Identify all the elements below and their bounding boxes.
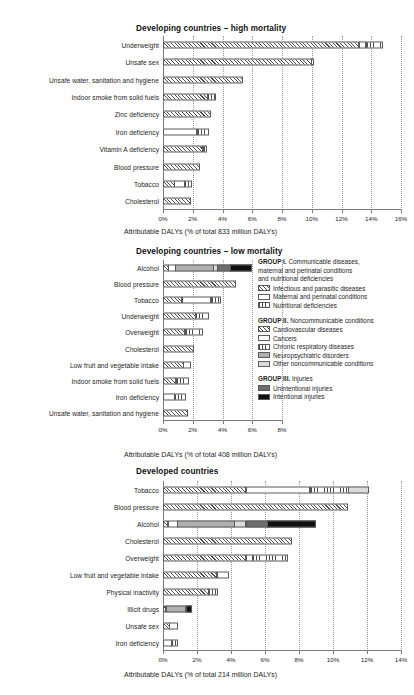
legend-item: Unintentional injuries bbox=[258, 384, 414, 393]
bar bbox=[163, 146, 208, 153]
category-label: Vitamin A deficiency bbox=[99, 146, 159, 153]
x-axis-line bbox=[163, 420, 282, 421]
legend-group-heading: GROUP III. Injuries bbox=[258, 375, 414, 384]
x-tick-label: 2% bbox=[188, 426, 197, 433]
x-tick-mark bbox=[163, 210, 164, 213]
x-tick-label: 6% bbox=[261, 656, 270, 663]
x-tick-label: 6% bbox=[248, 426, 257, 433]
category-label: Overweight bbox=[125, 554, 159, 561]
bar-segment bbox=[163, 486, 246, 493]
category-label: Cholesterol bbox=[125, 198, 159, 205]
legend-item: Nutritional deficiencies bbox=[258, 301, 414, 310]
bar bbox=[163, 622, 178, 629]
bar-segment bbox=[230, 265, 252, 272]
legend-item-label: Cardiovascular diseases bbox=[273, 326, 343, 333]
bar bbox=[163, 503, 348, 510]
bar-segment bbox=[211, 297, 221, 304]
bar bbox=[163, 59, 315, 66]
legend-group-heading-rest: Injuries bbox=[290, 375, 312, 382]
bar-segment bbox=[163, 76, 243, 83]
bar-segment bbox=[310, 486, 349, 493]
bar-segment bbox=[183, 361, 190, 368]
x-tick-label: 4% bbox=[218, 215, 227, 222]
legend-group-heading-line: and nutritional deficiencies bbox=[258, 275, 414, 284]
bar-segment bbox=[163, 361, 184, 368]
category-label: Underweight bbox=[121, 41, 159, 48]
x-tick-label: 8% bbox=[278, 215, 287, 222]
bar-segment bbox=[176, 377, 189, 384]
x-tick-mark bbox=[193, 421, 194, 424]
x-tick-label: 16% bbox=[395, 215, 407, 222]
gridline bbox=[342, 36, 343, 210]
gridline bbox=[371, 36, 372, 210]
bar bbox=[163, 128, 209, 135]
legend-item: Neuropsychiatric disorders bbox=[258, 351, 414, 360]
bar bbox=[163, 111, 211, 118]
bar bbox=[163, 639, 178, 646]
bar bbox=[163, 76, 243, 83]
bar-segment bbox=[246, 486, 311, 493]
category-label: Cholesterol bbox=[125, 537, 159, 544]
legend-item: Chronic respiratory diseases bbox=[258, 342, 414, 351]
bar bbox=[163, 41, 385, 48]
bar-segment bbox=[163, 128, 197, 135]
bar-segment bbox=[163, 409, 188, 416]
bar-segment bbox=[163, 281, 236, 288]
legend-item-label: Nutritional deficiencies bbox=[273, 302, 337, 309]
x-tick-mark bbox=[299, 651, 300, 654]
gridline bbox=[401, 481, 402, 651]
category-label: Indoor smoke from solid fuels bbox=[71, 93, 159, 100]
legend-swatch-icon bbox=[258, 302, 270, 308]
category-label: Illicit drugs bbox=[127, 605, 159, 612]
legend-group-spacer bbox=[258, 310, 414, 317]
x-tick-mark bbox=[367, 651, 368, 654]
bar-segment bbox=[163, 111, 211, 118]
bar bbox=[163, 409, 188, 416]
bar bbox=[163, 313, 209, 320]
bar bbox=[163, 537, 292, 544]
legend-item: Cancers bbox=[258, 334, 414, 343]
x-tick-label: 0% bbox=[159, 656, 168, 663]
bar-segment bbox=[267, 520, 316, 527]
x-tick-label: 14% bbox=[395, 656, 407, 663]
bar-segment bbox=[208, 588, 218, 595]
category-label: Tobacco bbox=[134, 486, 159, 493]
bar bbox=[163, 605, 194, 612]
x-tick-mark bbox=[342, 210, 343, 213]
bar-segment bbox=[217, 571, 229, 578]
bar bbox=[163, 265, 255, 272]
legend-group-heading-rest: Communicable diseases, bbox=[287, 258, 360, 265]
category-label: Physical inactivity bbox=[106, 588, 159, 595]
legend-swatch-icon bbox=[258, 294, 270, 300]
x-tick-label: 8% bbox=[295, 656, 304, 663]
plot-area: 0%2%4%6%8%10%12%14%TobaccoBlood pressure… bbox=[163, 481, 401, 651]
bar-segment bbox=[234, 520, 246, 527]
legend-item: Infectious and parasitic diseases bbox=[258, 284, 414, 293]
bar bbox=[163, 361, 191, 368]
x-tick-mark bbox=[282, 210, 283, 213]
legend-swatch-icon bbox=[258, 344, 270, 350]
x-tick-mark bbox=[401, 651, 402, 654]
bar bbox=[163, 93, 217, 100]
x-tick-mark bbox=[252, 421, 253, 424]
legend-group-heading-bold: GROUP II. bbox=[258, 317, 288, 324]
legend-group-heading-bold: GROUP III. bbox=[258, 375, 290, 382]
x-tick-label: 2% bbox=[188, 215, 197, 222]
bar-segment bbox=[163, 313, 196, 320]
bar-segment bbox=[174, 393, 186, 400]
category-label: Cholesterol bbox=[125, 345, 159, 352]
legend-group-heading: GROUP II. Noncommunicable conditions bbox=[258, 317, 414, 326]
bar bbox=[163, 554, 289, 561]
legend-item: Maternal and perinatal conditions bbox=[258, 292, 414, 301]
category-label: Blood pressure bbox=[114, 503, 159, 510]
x-axis-caption: Attributable DALYs (% of total 833 milli… bbox=[124, 228, 277, 235]
legend-swatch-icon bbox=[258, 335, 270, 341]
bar-segment bbox=[217, 265, 230, 272]
category-label: Overweight bbox=[125, 329, 159, 336]
x-tick-label: 4% bbox=[218, 426, 227, 433]
bar-segment bbox=[163, 345, 194, 352]
bar-segment bbox=[186, 605, 193, 612]
x-tick-mark bbox=[401, 210, 402, 213]
category-label: Low fruit and vegetable intake bbox=[70, 571, 159, 578]
category-label: Unsafe sex bbox=[126, 59, 160, 66]
